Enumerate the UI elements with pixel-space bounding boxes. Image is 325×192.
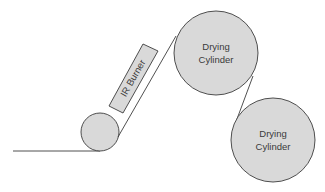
drying-cylinder-1-label-line2: Cylinder — [199, 54, 234, 65]
drying-cylinder-2-label-line2: Cylinder — [256, 141, 291, 152]
drying-cylinder-2: Drying Cylinder — [231, 98, 315, 182]
ir-burner: IR Burner — [109, 44, 158, 113]
drying-cylinder-1-label-line1: Drying — [202, 41, 229, 52]
drying-cylinder-1-body — [174, 11, 258, 95]
drying-cylinder-1: Drying Cylinder — [174, 11, 258, 95]
drying-cylinder-2-body — [231, 98, 315, 182]
drying-cylinder-2-label-line1: Drying — [259, 128, 286, 139]
guide-roller — [81, 113, 119, 151]
drying-section-diagram: IR Burner Drying Cylinder Drying Cylinde… — [0, 0, 325, 192]
